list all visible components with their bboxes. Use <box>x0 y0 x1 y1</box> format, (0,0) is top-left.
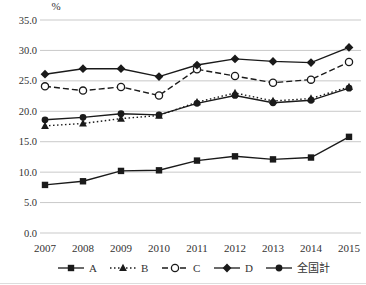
x-tick-label: 2009 <box>110 242 133 254</box>
x-tick-label: 2013 <box>262 242 285 254</box>
legend-item-C: C <box>162 262 200 274</box>
series-全国計 <box>42 85 353 123</box>
legend-label-全国計: 全国計 <box>297 261 330 274</box>
x-tick-label: 2010 <box>148 242 171 254</box>
x-tick-label: 2007 <box>34 242 57 254</box>
y-axis-unit-label: % <box>44 0 68 12</box>
page-bottom-rule <box>0 283 366 284</box>
series-D <box>41 43 354 81</box>
x-tick-label: 2012 <box>224 242 246 254</box>
y-tick-label: 25.0 <box>19 75 37 86</box>
y-tick-label: 5.0 <box>24 197 37 208</box>
y-tick-label: 15.0 <box>19 136 37 147</box>
y-tick-label: 10.0 <box>19 167 37 178</box>
legend-item-B: B <box>110 262 148 274</box>
legend-item-全国計: 全国計 <box>266 261 330 274</box>
gridlines <box>40 20 361 233</box>
x-tick-label: 2015 <box>338 242 361 254</box>
legend-item-A: A <box>58 262 97 274</box>
y-tick-label: 20.0 <box>19 106 37 117</box>
x-tick-label: 2014 <box>300 242 323 254</box>
line-chart: 0.05.010.015.020.025.030.035.02007200820… <box>0 0 366 285</box>
legend-label-C: C <box>193 262 200 274</box>
y-tick-label: 35.0 <box>19 15 37 26</box>
legend-label-A: A <box>89 262 97 274</box>
chart-container: % 0.05.010.015.020.025.030.035.020072008… <box>0 0 366 285</box>
y-axis-labels: 0.05.010.015.020.025.030.035.0 <box>19 15 37 239</box>
legend-label-B: B <box>141 262 148 274</box>
x-tick-label: 2011 <box>186 242 208 254</box>
x-tick-label: 2008 <box>72 242 95 254</box>
x-axis-labels: 200720082009201020112012201320142015 <box>34 242 361 254</box>
y-tick-label: 0.0 <box>24 228 37 239</box>
legend: ABCD全国計 <box>58 261 330 274</box>
legend-label-D: D <box>245 262 253 274</box>
y-tick-label: 30.0 <box>19 45 37 56</box>
legend-item-D: D <box>214 262 253 274</box>
